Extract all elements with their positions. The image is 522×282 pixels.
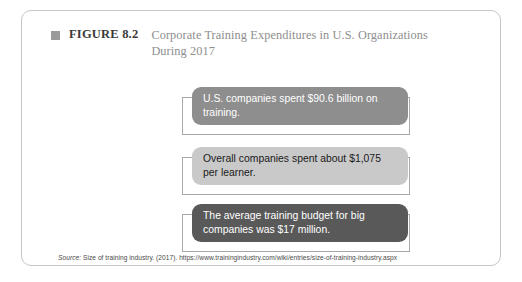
filled-square-icon xyxy=(51,31,60,40)
callout-item: The average training budget for big comp… xyxy=(182,204,410,252)
figure-title-line-1: Corporate Training Expenditures in U.S. … xyxy=(151,27,428,43)
figure-header: FIGURE 8.2 Corporate Training Expenditur… xyxy=(51,27,471,59)
callout-bubble: Overall companies spent about $1,075 per… xyxy=(192,147,408,185)
figure-label: FIGURE 8.2 xyxy=(69,27,138,42)
callout-item: Overall companies spent about $1,075 per… xyxy=(182,147,410,195)
callout-bubble: U.S. companies spent $90.6 billion on tr… xyxy=(192,87,408,125)
source-label: Source: xyxy=(58,254,81,261)
figure-title-line-2: During 2017 xyxy=(151,43,428,59)
page-title: Corporate Training Expenditures in U.S. … xyxy=(151,27,428,59)
source-note: Source: Size of training industry. (2017… xyxy=(58,254,498,261)
callout-bubble: The average training budget for big comp… xyxy=(192,204,408,242)
source-citation: Size of training industry. (2017). https… xyxy=(83,254,397,261)
callout-item: U.S. companies spent $90.6 billion on tr… xyxy=(182,87,410,135)
figure-container: FIGURE 8.2 Corporate Training Expenditur… xyxy=(21,10,501,266)
